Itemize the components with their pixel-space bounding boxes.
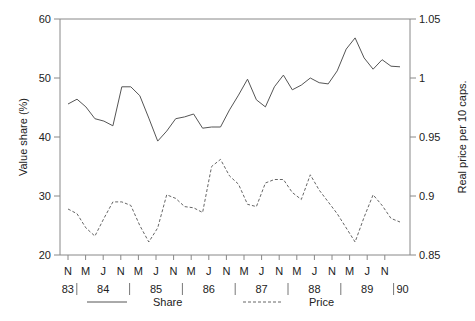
dual-axis-line-chart: 2030405060 0.850.90.9511.05 Value share … — [0, 0, 475, 321]
share-series-line — [68, 38, 400, 141]
right-y-axis: 0.850.90.9511.05 — [410, 13, 440, 261]
right-tick-label: 0.9 — [419, 190, 434, 202]
x-tick-month-label: N — [117, 265, 125, 277]
plot-frame — [60, 19, 410, 255]
x-year-label: 88 — [308, 283, 320, 295]
x-year-label: 89 — [361, 283, 373, 295]
x-tick-month-label: N — [64, 265, 72, 277]
x-tick-month-label: J — [206, 265, 212, 277]
x-tick-month-label: N — [275, 265, 283, 277]
x-year-label: 84 — [97, 283, 109, 295]
x-tick-month-label: J — [153, 265, 159, 277]
x-year-label: 85 — [150, 283, 162, 295]
legend-price-label: Price — [309, 296, 334, 308]
legend: Share Price — [87, 296, 334, 308]
right-tick-label: 0.95 — [419, 131, 440, 143]
x-tick-month-label: M — [134, 265, 143, 277]
x-tick-month-label: M — [81, 265, 90, 277]
right-tick-label: 0.85 — [419, 249, 440, 261]
x-tick-month-label: N — [328, 265, 336, 277]
left-tick-label: 60 — [39, 13, 51, 25]
right-axis-title: Real price per 10 caps. — [456, 80, 468, 193]
left-y-axis: 2030405060 — [39, 13, 60, 261]
left-tick-label: 40 — [39, 131, 51, 143]
x-tick-month-label: N — [222, 265, 230, 277]
x-tick-month-label: J — [364, 265, 370, 277]
x-tick-month-label: M — [187, 265, 196, 277]
left-tick-label: 30 — [39, 190, 51, 202]
x-tick-month-label: J — [312, 265, 318, 277]
x-tick-month-label: M — [239, 265, 248, 277]
right-tick-label: 1.05 — [419, 13, 440, 25]
x-tick-month-label: M — [292, 265, 301, 277]
right-tick-label: 1 — [419, 72, 425, 84]
x-tick-month-label: N — [170, 265, 178, 277]
x-tick-month-label: N — [381, 265, 389, 277]
x-axis: NMJNMJNMJNMJNMJNMJN8384858687888990 — [62, 255, 409, 295]
x-tick-month-label: M — [345, 265, 354, 277]
x-year-label: 83 — [62, 283, 74, 295]
x-tick-month-label: J — [259, 265, 265, 277]
left-axis-title: Value share (%) — [17, 98, 29, 176]
x-tick-month-label: J — [100, 265, 106, 277]
left-tick-label: 20 — [39, 249, 51, 261]
x-year-label: 90 — [396, 283, 408, 295]
price-series-line — [68, 159, 400, 242]
left-tick-label: 50 — [39, 72, 51, 84]
legend-share-label: Share — [153, 296, 182, 308]
x-year-label: 86 — [203, 283, 215, 295]
x-year-label: 87 — [255, 283, 267, 295]
